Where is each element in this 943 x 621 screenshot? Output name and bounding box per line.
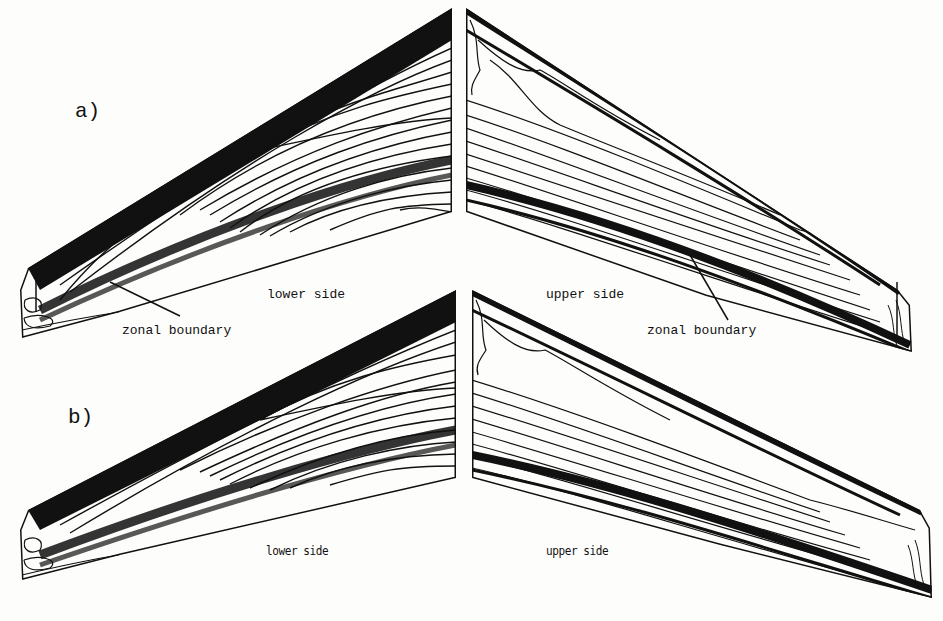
panel-b-upper-side-label: upper side	[546, 543, 608, 558]
panel-b-lower-side-wing	[20, 290, 456, 580]
figure: a) b) lower side upper side zonal bounda…	[0, 0, 943, 621]
panel-b-lower-side-label: lower side	[266, 543, 328, 558]
panel-a-upper-side-wing	[466, 8, 912, 352]
panel-a-lower-side-wing	[20, 8, 452, 338]
contour-plot-graphics	[0, 0, 943, 621]
panel-a-upper-side-label: upper side	[546, 287, 624, 302]
zonal-boundary-label-left: zonal boundary	[122, 323, 231, 338]
panel-a-lower-side-label: lower side	[267, 287, 345, 302]
panel-label-b: b)	[68, 406, 93, 429]
panel-label-a: a)	[75, 100, 100, 123]
zonal-boundary-label-right: zonal boundary	[647, 323, 756, 338]
